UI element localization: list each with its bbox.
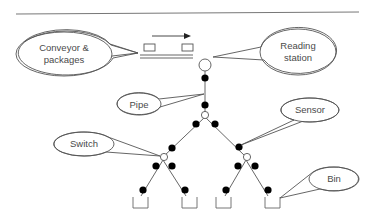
sensor-node: [234, 162, 241, 169]
callout-conveyor: Conveyor & packages: [16, 30, 138, 76]
callout-pipe-label: Pipe: [129, 99, 148, 110]
callout-switch-label: Switch: [70, 138, 98, 149]
callout-sensor-label: Sensor: [295, 104, 325, 115]
bins: [133, 197, 280, 208]
callout-reading-line1: Reading: [280, 40, 315, 51]
direction-arrow-head-icon: [184, 33, 191, 39]
callout-reading-station: Reading station: [213, 27, 337, 75]
sensor-node: [168, 162, 175, 169]
switch-node: [160, 153, 167, 160]
pipes: [141, 71, 268, 196]
sorting-diagram: Conveyor & packages Reading station Pipe…: [0, 0, 374, 221]
sensor-node: [264, 186, 271, 193]
switch-node: [201, 111, 208, 118]
conveyor: [140, 33, 193, 58]
sensor-node: [168, 144, 175, 151]
bin-icon: [182, 197, 197, 208]
reading-station-icon: [199, 59, 211, 71]
sensor-node: [139, 186, 146, 193]
package-box: [182, 44, 193, 51]
callout-conveyor-line1: Conveyor &: [39, 42, 89, 53]
bin-icon: [133, 197, 148, 208]
callout-reading-line2: station: [284, 52, 312, 63]
callout-conveyor-line2: packages: [44, 54, 85, 65]
callout-pipe: Pipe: [117, 93, 204, 115]
bin-icon: [216, 197, 231, 208]
callout-bin-label: Bin: [327, 173, 341, 184]
switches: [160, 111, 250, 160]
package-box: [144, 44, 155, 51]
callout-bin: Bin: [280, 167, 359, 198]
callout-switch: Switch: [54, 132, 160, 156]
sensors: [139, 74, 271, 193]
sensor-node: [251, 162, 258, 169]
callout-sensor: Sensor: [241, 98, 339, 145]
sensor-node: [181, 186, 188, 193]
switch-node: [243, 153, 250, 160]
sensor-node: [192, 120, 199, 127]
sensor-node: [222, 186, 229, 193]
sensor-node: [211, 120, 218, 127]
top-rule: [16, 12, 359, 14]
sensor-node: [152, 162, 159, 169]
sensor-node: [201, 101, 208, 108]
sensor-node: [201, 74, 208, 81]
bin-icon: [265, 197, 280, 208]
